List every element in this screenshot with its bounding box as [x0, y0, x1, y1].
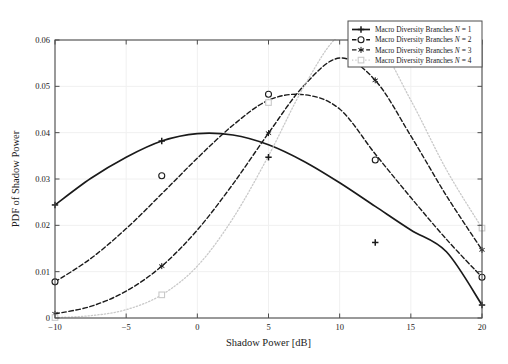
x-tick-label: 15 [407, 322, 416, 332]
x-tick-label: 10 [335, 322, 344, 332]
x-tick-label: 5 [266, 322, 270, 332]
x-tick-label: 20 [478, 322, 487, 332]
marker-series-4 [159, 292, 165, 298]
legend-label-4: Macro Diversity Branches N = 4 [375, 56, 472, 65]
legend-marker-2 [358, 37, 364, 43]
y-tick-label: 0.06 [35, 35, 50, 45]
legend-label-1: Macro Diversity Branches N = 1 [375, 25, 472, 34]
y-tick-label: 0.02 [35, 220, 50, 230]
y-tick-label: 0 [46, 313, 50, 323]
y-tick-label: 0.05 [35, 81, 50, 91]
chart-canvas: −10−50510152000.010.020.030.040.050.06 M… [0, 0, 508, 364]
marker-series-2 [159, 173, 165, 179]
x-axis-label: Shadow Power [dB] [226, 337, 311, 348]
legend-marker-4 [358, 57, 364, 63]
marker-series-2 [266, 91, 272, 97]
x-tick-label: −5 [122, 322, 131, 332]
marker-series-2 [372, 157, 378, 163]
x-tick-label: −10 [48, 322, 61, 332]
marker-series-4 [266, 100, 272, 106]
x-tick-label: 0 [195, 322, 199, 332]
y-tick-label: 0.01 [35, 267, 50, 277]
legend[interactable]: Macro Diversity Branches N = 1Macro Dive… [348, 21, 482, 67]
y-tick-label: 0.03 [35, 174, 50, 184]
legend-label-2: Macro Diversity Branches N = 2 [375, 35, 472, 44]
y-tick-label: 0.04 [35, 128, 51, 138]
chart-figure: −10−50510152000.010.020.030.040.050.06 M… [0, 0, 508, 364]
y-axis-label: PDF of Shadow Power [10, 130, 21, 227]
legend-label-3: Macro Diversity Branches N = 3 [375, 46, 472, 55]
